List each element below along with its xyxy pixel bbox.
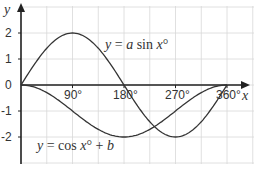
svg-text:1: 1 bbox=[5, 52, 12, 66]
x-axis-label: x bbox=[241, 88, 249, 103]
svg-text:90°: 90° bbox=[64, 88, 82, 102]
sin-curve-label: y = a sin x° bbox=[103, 37, 168, 52]
y-tick-labels: 2 1 0 -1 -2 bbox=[1, 26, 12, 144]
svg-text:2: 2 bbox=[5, 26, 12, 40]
svg-text:-1: -1 bbox=[1, 104, 12, 118]
svg-text:270°: 270° bbox=[165, 88, 190, 102]
graph: y x 2 1 0 -1 -2 90° 180° 270° 360° y = a… bbox=[0, 0, 254, 170]
svg-text:0: 0 bbox=[5, 78, 12, 92]
x-tick-labels: 90° 180° 270° 360° bbox=[64, 88, 241, 102]
svg-text:360°: 360° bbox=[216, 88, 241, 102]
svg-text:180°: 180° bbox=[113, 88, 138, 102]
svg-text:-2: -2 bbox=[1, 130, 12, 144]
cos-curve-label: y = cos x° + b bbox=[35, 138, 114, 153]
y-axis-label: y bbox=[2, 2, 11, 17]
